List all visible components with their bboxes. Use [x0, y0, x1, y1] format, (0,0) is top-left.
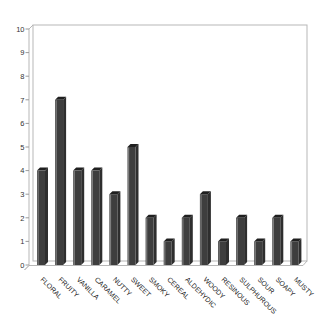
- bar-highlight-edge: [273, 218, 274, 265]
- bar-side-face: [190, 215, 193, 265]
- bar-side-face: [45, 168, 48, 265]
- bar-side-face: [280, 215, 283, 265]
- y-axis-tick-label: 2: [20, 214, 24, 223]
- bar-side-face: [244, 215, 247, 265]
- chart-figure: 012345678910FLORALFRUITYVANILLACARAMELNU…: [0, 0, 325, 329]
- y-axis-tick-label: 1: [20, 237, 24, 246]
- y-axis-tick-label: 10: [16, 25, 24, 34]
- wall-top-corner-edge: [29, 25, 33, 29]
- bar-highlight-edge: [110, 195, 111, 265]
- floor-right-corner-edge: [303, 261, 307, 266]
- bar-highlight-edge: [128, 148, 129, 266]
- bar-side-face: [136, 144, 139, 265]
- bar-side-face: [99, 168, 102, 265]
- y-axis-tick-label: 7: [20, 96, 24, 105]
- bar-side-face: [63, 97, 66, 265]
- bar-side-face: [262, 238, 265, 265]
- x-axis-label-musty: MUSTY: [293, 276, 316, 299]
- y-axis-tick-label: 6: [20, 119, 24, 128]
- y-axis-tick-label: 4: [20, 166, 24, 175]
- y-axis-tick-label: 0: [20, 261, 24, 270]
- bar-side-face: [208, 191, 211, 265]
- bar-highlight-edge: [237, 218, 238, 265]
- bar-highlight-edge: [182, 218, 183, 265]
- bar-side-face: [117, 191, 120, 265]
- bar-highlight-edge: [146, 218, 147, 265]
- bar-highlight-edge: [74, 171, 75, 265]
- y-axis-tick-label: 5: [20, 143, 24, 152]
- bar-side-face: [154, 215, 157, 265]
- bar-highlight-edge: [219, 242, 220, 265]
- bar-highlight-edge: [291, 242, 292, 265]
- bar-highlight-edge: [56, 100, 57, 265]
- bar-chart-canvas: 012345678910FLORALFRUITYVANILLACARAMELNU…: [0, 0, 325, 329]
- bar-highlight-edge: [255, 242, 256, 265]
- bar-side-face: [298, 238, 301, 265]
- y-axis-tick-label: 9: [20, 48, 24, 57]
- origin-depth-stub: [25, 266, 30, 271]
- bar-highlight-edge: [38, 171, 39, 265]
- bar-highlight-edge: [164, 242, 165, 265]
- bar-side-face: [81, 168, 84, 265]
- bar-side-face: [226, 238, 229, 265]
- y-axis-tick-label: 3: [20, 190, 24, 199]
- bar-side-face: [172, 238, 175, 265]
- bar-highlight-edge: [200, 195, 201, 265]
- bar-highlight-edge: [92, 171, 93, 265]
- y-axis-tick-label: 8: [20, 72, 24, 81]
